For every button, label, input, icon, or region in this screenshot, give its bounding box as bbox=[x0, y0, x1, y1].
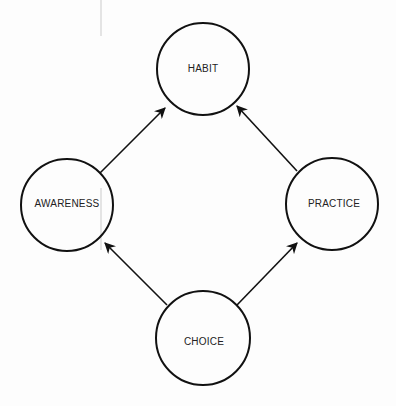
label-habit: HABIT bbox=[188, 63, 218, 74]
arrow-choice-to-practice bbox=[237, 243, 297, 305]
arrow-choice-to-awareness bbox=[105, 243, 167, 305]
label-practice: PRACTICE bbox=[308, 198, 360, 209]
arrow-awareness-to-habit bbox=[100, 108, 165, 173]
arrow-practice-to-habit bbox=[237, 106, 297, 171]
label-awareness: AWARENESS bbox=[35, 198, 100, 209]
edges bbox=[100, 106, 297, 305]
label-choice: CHOICE bbox=[184, 336, 224, 347]
